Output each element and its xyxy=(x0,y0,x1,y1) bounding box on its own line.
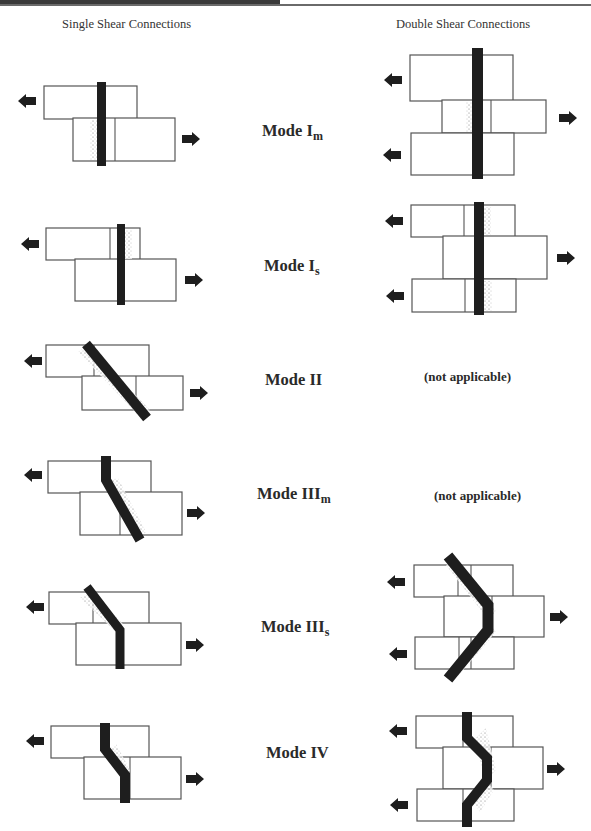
diagram-double-mode-iv xyxy=(389,712,565,827)
diagram-double-mode-is xyxy=(385,202,575,315)
diagram-single-mode-iiis xyxy=(26,587,204,669)
connection-diagrams xyxy=(0,0,591,831)
load-arrow-right xyxy=(182,132,200,146)
diagram-single-mode-ii xyxy=(24,344,208,418)
diagram-single-mode-iv xyxy=(26,723,204,803)
diagram-single-mode-iiim xyxy=(24,456,205,540)
diagram-single-mode-im xyxy=(18,82,200,166)
diagram-single-mode-is xyxy=(21,224,203,305)
load-arrow-left xyxy=(18,94,36,108)
diagram-double-mode-iiis xyxy=(387,556,568,679)
diagram-double-mode-im xyxy=(383,48,577,179)
